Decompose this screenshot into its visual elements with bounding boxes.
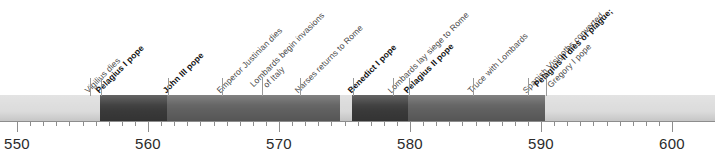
axis-tick-label-580: 580 — [397, 135, 423, 152]
event-leader-line-benedict-i-pope — [353, 78, 354, 96]
event-leader-line-john-iii-pope — [168, 78, 169, 96]
axis-tick-minor — [633, 121, 634, 126]
axis-tick-label-590: 590 — [528, 135, 554, 152]
event-leader-line-justinian-dies — [222, 78, 223, 96]
axis-tick-minor — [214, 121, 215, 126]
timeline-axis: 550560570580590600 — [0, 121, 715, 164]
axis-tick-minor — [449, 121, 450, 126]
bar-segment-john-iii-reign — [167, 95, 340, 121]
axis-tick-minor — [593, 121, 594, 126]
event-leader-line-pelagius-ii-dies — [546, 78, 547, 96]
event-leader-line-vigilius-dies — [90, 78, 91, 96]
axis-tick-minor — [83, 121, 84, 126]
axis-tick-minor — [30, 121, 31, 126]
axis-tick-minor — [384, 121, 385, 126]
timeline-bar — [0, 95, 715, 121]
axis-tick-label-560: 560 — [135, 135, 161, 152]
axis-tick-minor — [580, 121, 581, 126]
axis-tick-minor — [476, 121, 477, 126]
axis-tick-minor — [331, 121, 332, 126]
axis-tick-label-600: 600 — [659, 135, 685, 152]
axis-tick-minor — [345, 121, 346, 126]
bar-segment-pre-pelagius-i — [0, 95, 100, 121]
axis-tick-major — [672, 121, 673, 132]
event-leader-line-narses-returns — [300, 78, 301, 96]
axis-tick-minor — [253, 121, 254, 126]
axis-tick-minor — [607, 121, 608, 126]
axis-tick-minor — [43, 121, 44, 126]
event-labels-layer: Vigilius diesPelagius I popeJohn III pop… — [0, 0, 715, 96]
event-leader-line-visigoths-converted — [528, 78, 529, 96]
axis-tick-minor — [659, 121, 660, 126]
axis-tick-minor — [305, 121, 306, 126]
axis-tick-minor — [436, 121, 437, 126]
axis-tick-major — [279, 121, 280, 132]
axis-tick-minor — [620, 121, 621, 126]
bar-segment-sede-vacante-gap — [340, 95, 352, 121]
axis-tick-minor — [318, 121, 319, 126]
axis-tick-major — [148, 121, 149, 132]
axis-tick-minor — [161, 121, 162, 126]
axis-tick-minor — [567, 121, 568, 126]
axis-tick-label-570: 570 — [266, 135, 292, 152]
axis-tick-minor — [266, 121, 267, 126]
axis-tick-minor — [358, 121, 359, 126]
axis-tick-minor — [135, 121, 136, 126]
bar-segment-benedict-i-reign — [352, 95, 408, 121]
event-leader-line-pelagius-ii-pope — [409, 78, 410, 96]
axis-tick-minor — [122, 121, 123, 126]
bar-segment-pelagius-ii-reign — [408, 95, 545, 121]
event-leader-line-lombards-siege-rome — [393, 78, 394, 96]
axis-tick-major — [17, 121, 18, 132]
bar-segment-gregory-i-reign — [545, 95, 715, 121]
event-leader-line-pelagius-i-pope — [101, 78, 102, 96]
axis-tick-minor — [200, 121, 201, 126]
axis-tick-minor — [187, 121, 188, 126]
event-label-lombards-siege-rome: Lombards lay siege to Rome — [386, 11, 471, 96]
axis-tick-minor — [56, 121, 57, 126]
axis-tick-minor — [554, 121, 555, 126]
event-leader-line-truce-with-lombards — [473, 78, 474, 96]
axis-tick-minor — [462, 121, 463, 126]
axis-tick-minor — [227, 121, 228, 126]
event-label-line: Lombards lay siege to Rome — [386, 11, 471, 96]
axis-tick-minor — [109, 121, 110, 126]
event-label-line: Gregory I pope — [539, 13, 622, 96]
axis-tick-minor — [397, 121, 398, 126]
axis-tick-minor — [69, 121, 70, 126]
axis-tick-minor — [423, 121, 424, 126]
axis-tick-minor — [515, 121, 516, 126]
timeline-figure: Vigilius diesPelagius I popeJohn III pop… — [0, 0, 715, 164]
axis-tick-minor — [174, 121, 175, 126]
axis-tick-minor — [96, 121, 97, 126]
axis-tick-minor — [240, 121, 241, 126]
event-label-line: Pelagius II dies of plague; — [532, 7, 615, 90]
axis-tick-major — [410, 121, 411, 132]
axis-tick-minor — [371, 121, 372, 126]
axis-tick-minor — [646, 121, 647, 126]
axis-tick-minor — [502, 121, 503, 126]
bar-segment-pelagius-i-reign — [100, 95, 167, 121]
event-leader-line-lombards-invade — [262, 78, 263, 96]
axis-tick-minor — [489, 121, 490, 126]
axis-tick-major — [541, 121, 542, 132]
axis-tick-label-550: 550 — [4, 135, 30, 152]
axis-tick-minor — [528, 121, 529, 126]
axis-tick-minor — [292, 121, 293, 126]
